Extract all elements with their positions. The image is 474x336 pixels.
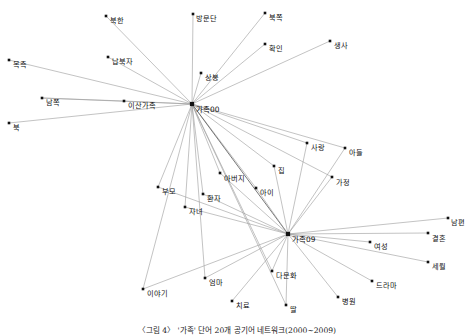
network-edge bbox=[9, 104, 192, 123]
network-node[interactable]: 가정 bbox=[331, 176, 350, 187]
node-marker bbox=[41, 97, 44, 100]
node-label: 북한 bbox=[110, 16, 124, 25]
node-label: 상봉 bbox=[205, 73, 219, 82]
network-node[interactable]: 세월 bbox=[427, 261, 446, 271]
node-label: 생사 bbox=[334, 41, 348, 50]
node-label: 이산가족 bbox=[128, 101, 156, 110]
network-node[interactable]: 북한 bbox=[105, 15, 124, 25]
network-node[interactable]: 이야기 bbox=[142, 288, 168, 298]
node-marker bbox=[427, 261, 430, 264]
node-marker bbox=[8, 122, 11, 125]
node-label: 아들 bbox=[349, 148, 363, 157]
node-marker bbox=[8, 59, 11, 62]
node-marker bbox=[264, 12, 267, 15]
node-label: 남편 bbox=[451, 218, 465, 227]
network-edge bbox=[192, 44, 265, 104]
node-marker bbox=[190, 102, 194, 106]
node-marker bbox=[142, 288, 145, 291]
network-edge bbox=[192, 104, 288, 234]
node-marker bbox=[271, 270, 274, 273]
network-node[interactable]: 엄마 bbox=[204, 277, 223, 287]
node-label: 딸 bbox=[290, 305, 297, 314]
node-marker bbox=[273, 165, 276, 168]
network-node[interactable]: 생사 bbox=[329, 40, 348, 50]
network-node[interactable]: 부모 bbox=[157, 186, 176, 196]
network-node[interactable]: 치료 bbox=[231, 300, 250, 310]
node-marker bbox=[204, 277, 207, 280]
network-edge bbox=[288, 177, 332, 234]
network-edge bbox=[288, 218, 448, 234]
network-node[interactable]: 아버지 bbox=[219, 172, 245, 183]
network-node[interactable]: 다문화 bbox=[271, 270, 297, 280]
node-label: 환자 bbox=[207, 194, 221, 203]
node-label: 엄마 bbox=[209, 278, 223, 287]
node-marker bbox=[219, 172, 222, 175]
network-node[interactable]: 환자 bbox=[202, 193, 221, 203]
node-label: 집 bbox=[278, 166, 285, 175]
network-node[interactable]: 아들 bbox=[344, 147, 363, 157]
network-node[interactable]: 드라마 bbox=[371, 280, 397, 290]
network-node[interactable]: 사랑 bbox=[306, 142, 325, 152]
node-label: 확인 bbox=[269, 44, 283, 53]
node-marker bbox=[286, 232, 290, 236]
node-label: 북쪽 bbox=[269, 13, 283, 22]
node-label: 아버지 bbox=[224, 174, 245, 183]
network-edge bbox=[9, 60, 192, 104]
node-label: 병원 bbox=[342, 297, 356, 306]
node-label: 가족00 bbox=[196, 105, 220, 114]
node-marker bbox=[105, 15, 108, 18]
network-edge bbox=[158, 104, 192, 187]
node-marker bbox=[369, 241, 372, 244]
network-node[interactable]: 방문단 bbox=[192, 13, 217, 23]
node-label: 남쪽 bbox=[46, 98, 60, 107]
node-label: 가정 bbox=[336, 178, 350, 187]
node-marker bbox=[123, 100, 126, 103]
node-label: 사랑 bbox=[311, 143, 325, 152]
network-edge bbox=[192, 73, 201, 104]
node-label: 자녀 bbox=[189, 207, 203, 216]
network-node[interactable]: 여성 bbox=[369, 241, 388, 251]
node-marker bbox=[371, 280, 374, 283]
network-edge bbox=[192, 13, 265, 104]
network-node[interactable]: 납북자 bbox=[107, 56, 133, 66]
node-label: 북 bbox=[13, 123, 20, 132]
node-marker bbox=[192, 13, 195, 16]
network-node[interactable]: 확인 bbox=[264, 43, 283, 53]
network-node[interactable]: 결혼 bbox=[427, 232, 446, 243]
node-label: 다문화 bbox=[276, 271, 297, 280]
network-figure: 북한방문단북쪽확인생사상봉납북자목측남쪽이산가족북가족00사랑아들가정집아버지아… bbox=[0, 0, 474, 336]
network-edge bbox=[272, 234, 288, 271]
network-edge bbox=[185, 104, 192, 207]
network-node[interactable]: 북 bbox=[8, 122, 20, 132]
node-label: 치료 bbox=[236, 301, 250, 310]
node-marker bbox=[331, 176, 334, 179]
network-edge bbox=[192, 104, 205, 278]
node-marker bbox=[200, 72, 203, 75]
node-marker bbox=[427, 232, 430, 235]
node-marker bbox=[255, 187, 258, 190]
network-node[interactable]: 아이 bbox=[255, 187, 274, 197]
node-marker bbox=[157, 186, 160, 189]
network-canvas: 북한방문단북쪽확인생사상봉납북자목측남쪽이산가족북가족00사랑아들가정집아버지아… bbox=[0, 0, 474, 336]
node-marker bbox=[306, 142, 309, 145]
network-node[interactable]: 남편 bbox=[447, 217, 465, 227]
network-node[interactable]: 상봉 bbox=[200, 72, 219, 82]
node-label: 납북자 bbox=[112, 57, 133, 66]
network-node[interactable]: 딸 bbox=[285, 304, 297, 314]
node-label: 부모 bbox=[162, 187, 176, 196]
network-node[interactable]: 북쪽 bbox=[264, 12, 283, 22]
node-label: 이야기 bbox=[147, 289, 168, 298]
node-marker bbox=[329, 40, 332, 43]
node-label: 드라마 bbox=[376, 281, 397, 290]
figure-caption: 〈그림 4〉 '가족' 단어 20개 공기어 네트워크(2000~2009) bbox=[0, 324, 474, 335]
node-marker bbox=[447, 217, 450, 220]
node-label: 결혼 bbox=[432, 234, 446, 243]
node-marker bbox=[231, 300, 234, 303]
node-marker bbox=[337, 296, 340, 299]
network-node[interactable]: 이산가족 bbox=[123, 100, 156, 110]
network-edge bbox=[288, 143, 307, 234]
node-label: 아이 bbox=[260, 188, 274, 197]
network-node[interactable]: 병원 bbox=[337, 296, 356, 306]
node-marker bbox=[285, 304, 288, 307]
node-marker bbox=[344, 147, 347, 150]
